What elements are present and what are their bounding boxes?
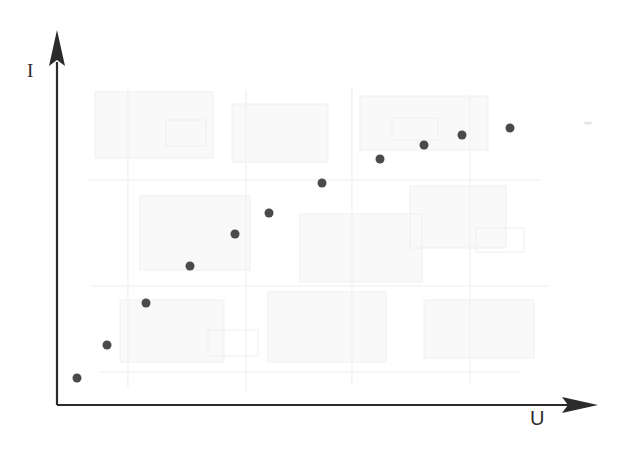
data-point [458,131,467,140]
y-axis-arrowhead [49,30,65,66]
data-point [376,155,385,164]
y-axis-label: I [27,61,33,80]
scatter-plot-figure: I U [0,0,627,457]
bleed-through-artifact [88,86,548,392]
x-axis [57,397,598,413]
plot-canvas [0,0,627,457]
y-axis [49,30,65,405]
data-point [186,262,195,271]
data-point [73,374,82,383]
data-point [265,209,274,218]
data-point [231,230,240,239]
data-point [506,124,515,133]
scan-speck [584,122,592,125]
data-point [142,299,151,308]
data-point [103,341,112,350]
data-point [420,141,429,150]
x-axis-label: U [530,408,544,428]
data-point [318,179,327,188]
